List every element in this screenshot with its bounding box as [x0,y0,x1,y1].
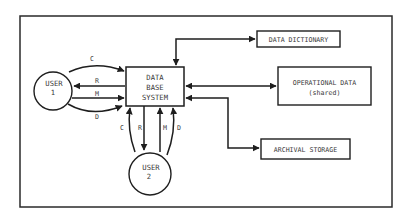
dbms-node: DATA BASE SYSTEM [126,67,184,106]
user1-r-label: R [95,77,99,85]
archival-storage-node: ARCHIVAL STORAGE [261,139,350,159]
archival-storage-label: ARCHIVAL STORAGE [274,146,338,154]
user1-c-label: C [90,55,94,63]
dbms-label-line2: BASE [146,83,163,92]
user2-delete-arrow [167,108,174,155]
dbms-data-dictionary-link [176,39,255,65]
user2-m-label: M [163,124,167,132]
outer-frame [20,16,392,207]
data-dictionary-label: DATA DICTIONARY [269,36,329,44]
user2-node: USER 2 [129,153,171,195]
user2-label-line2: 2 [147,172,151,181]
user2-c-label: C [120,124,124,132]
dbms-label-line3: SYSTEM [142,93,169,102]
data-dictionary-node: DATA DICTIONARY [257,31,340,47]
operational-data-node: OPERATIONAL DATA (shared) [278,67,371,105]
operational-data-label-line1: OPERATIONAL DATA [293,79,357,87]
user1-m-label: M [95,90,99,98]
user2-flows: C R M D [120,106,181,155]
user1-delete-arrow [68,104,122,112]
dbms-diagram: DATA BASE SYSTEM USER 1 USER 2 DATA DICT… [0,0,412,221]
operational-data-label-line2: (shared) [309,89,341,97]
user1-d-label: D [95,113,99,121]
user2-d-label: D [177,124,181,132]
user1-node: USER 1 [34,72,72,110]
user2-create-arrow [129,108,135,152]
store-connections [176,39,276,148]
user1-label-line1: USER [45,79,63,88]
user2-label-line1: USER [142,163,160,172]
user1-label-line2: 1 [51,88,55,97]
user1-create-arrow [69,66,124,72]
dbms-label-line1: DATA [146,73,164,82]
user2-r-label: R [138,124,142,132]
user1-flows: C R M D [68,55,125,121]
dbms-archival-storage-link [186,98,259,148]
